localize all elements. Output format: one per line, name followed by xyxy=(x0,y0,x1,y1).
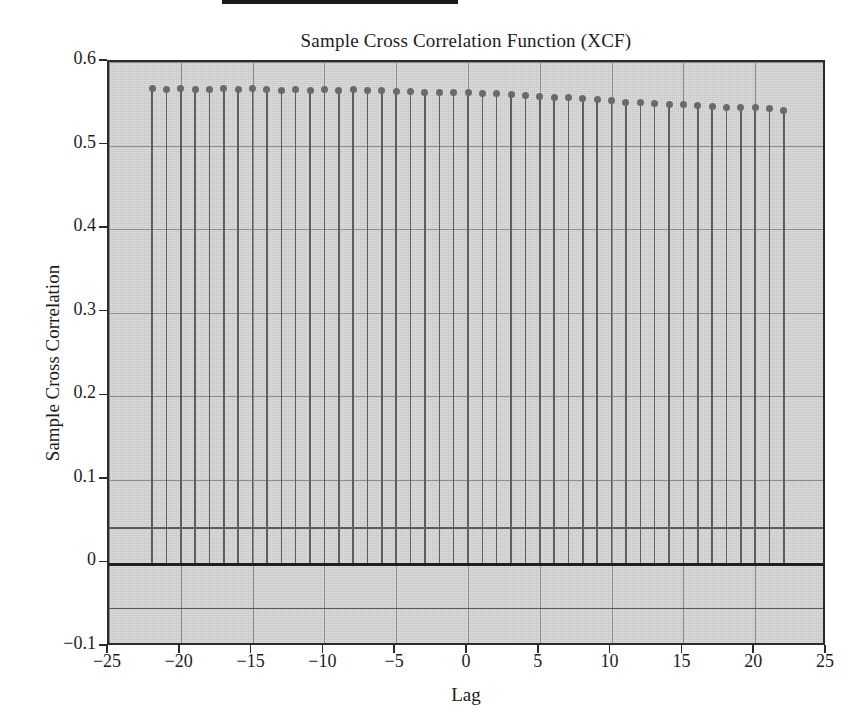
stem-line xyxy=(223,89,225,564)
data-point-marker xyxy=(479,90,486,97)
gridline-horizontal xyxy=(109,396,823,397)
data-point-marker xyxy=(622,99,629,106)
y-tick-mark xyxy=(99,143,107,145)
stem-line xyxy=(654,104,656,564)
data-point-marker xyxy=(651,100,658,107)
y-tick-label: 0.4 xyxy=(0,215,110,236)
figure-container: Sample Cross Correlation Function (XCF) … xyxy=(0,0,862,725)
data-point-marker xyxy=(737,104,744,111)
y-tick-mark xyxy=(99,226,107,228)
data-point-marker xyxy=(307,87,314,94)
data-point-marker xyxy=(292,86,299,93)
y-tick-label: 0 xyxy=(0,549,110,570)
data-point-marker xyxy=(235,86,242,93)
x-tick-label: 0 xyxy=(426,651,506,672)
stem-line xyxy=(151,89,153,564)
plot-area xyxy=(107,60,825,645)
x-tick-label: 20 xyxy=(713,651,793,672)
y-tick-label: 0.5 xyxy=(0,132,110,153)
stem-line xyxy=(467,93,469,564)
gridline-horizontal xyxy=(109,313,823,314)
stem-line xyxy=(553,97,555,563)
y-tick-label: 0.3 xyxy=(0,299,110,320)
data-point-marker xyxy=(177,85,184,92)
data-point-marker xyxy=(364,87,371,94)
x-tick-mark xyxy=(752,645,754,653)
plot-texture xyxy=(109,62,823,643)
stem-line xyxy=(424,92,426,563)
stem-line xyxy=(525,95,527,563)
x-tick-mark xyxy=(824,645,826,653)
data-point-marker xyxy=(723,104,730,111)
stem-line xyxy=(367,90,369,563)
stem-line xyxy=(496,94,498,564)
data-point-marker xyxy=(694,102,701,109)
data-point-marker xyxy=(579,95,586,102)
confidence-bound-lower xyxy=(109,608,823,610)
y-tick-label: 0.6 xyxy=(0,48,110,69)
stem-line xyxy=(395,91,397,563)
gridline-horizontal xyxy=(109,62,823,63)
data-point-marker xyxy=(608,97,615,104)
stem-line xyxy=(611,100,613,563)
stem-line xyxy=(726,107,728,563)
x-tick-mark xyxy=(681,645,683,653)
data-point-marker xyxy=(508,91,515,98)
stem-line xyxy=(582,99,584,564)
data-point-marker xyxy=(752,104,759,111)
stem-line xyxy=(309,90,311,563)
y-tick-label: 0.1 xyxy=(0,466,110,487)
data-point-marker xyxy=(393,88,400,95)
stem-line xyxy=(209,90,211,564)
stem-line xyxy=(754,108,756,563)
data-point-marker xyxy=(493,90,500,97)
data-point-marker xyxy=(680,101,687,108)
x-tick-mark xyxy=(465,645,467,653)
stem-line xyxy=(596,100,598,564)
stem-line xyxy=(640,103,642,563)
y-tick-mark xyxy=(99,310,107,312)
stem-line xyxy=(740,108,742,563)
data-point-marker xyxy=(220,85,227,92)
data-point-marker xyxy=(666,101,673,108)
x-tick-mark xyxy=(537,645,539,653)
stem-line xyxy=(510,95,512,564)
data-point-marker xyxy=(780,107,787,114)
data-point-marker xyxy=(407,88,414,95)
stem-line xyxy=(482,94,484,564)
gridline-horizontal xyxy=(109,229,823,230)
data-point-marker xyxy=(321,86,328,93)
stem-line xyxy=(352,90,354,564)
y-tick-mark xyxy=(99,59,107,61)
stem-line xyxy=(711,106,713,563)
stem-line xyxy=(266,90,268,564)
x-tick-mark xyxy=(393,645,395,653)
x-tick-mark xyxy=(106,645,108,653)
x-tick-label: −20 xyxy=(139,651,219,672)
confidence-bound-upper xyxy=(109,527,823,529)
x-tick-label: −15 xyxy=(211,651,291,672)
stem-line xyxy=(381,90,383,563)
data-point-marker xyxy=(766,105,773,112)
data-point-marker xyxy=(450,89,457,96)
data-point-marker xyxy=(551,94,558,101)
zero-reference-line xyxy=(109,563,823,566)
x-tick-label: 15 xyxy=(641,651,721,672)
stem-line xyxy=(668,105,670,564)
x-tick-label: −10 xyxy=(282,651,362,672)
y-tick-mark xyxy=(99,477,107,479)
data-point-marker xyxy=(465,89,472,96)
stem-line xyxy=(295,90,297,564)
stem-line xyxy=(783,110,785,563)
x-tick-label: 25 xyxy=(785,651,862,672)
data-point-marker xyxy=(637,99,644,106)
y-tick-mark xyxy=(99,561,107,563)
stem-line xyxy=(194,90,196,564)
data-point-marker xyxy=(709,103,716,110)
stem-line xyxy=(568,98,570,563)
x-tick-mark xyxy=(609,645,611,653)
stem-line xyxy=(281,90,283,563)
data-point-marker xyxy=(565,94,572,101)
data-point-marker xyxy=(206,86,213,93)
data-point-marker xyxy=(192,86,199,93)
